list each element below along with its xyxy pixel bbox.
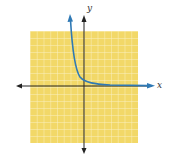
curve-up-arrow-icon — [68, 14, 74, 22]
x-axis-left-arrow-icon — [16, 84, 22, 89]
x-axis-label: x — [157, 80, 162, 90]
y-axis-label: y — [87, 3, 92, 13]
coordinate-graph — [0, 0, 173, 156]
curve-right-arrow-icon — [147, 83, 155, 89]
y-axis-down-arrow-icon — [82, 148, 87, 154]
y-axis-up-arrow-icon — [82, 15, 87, 22]
